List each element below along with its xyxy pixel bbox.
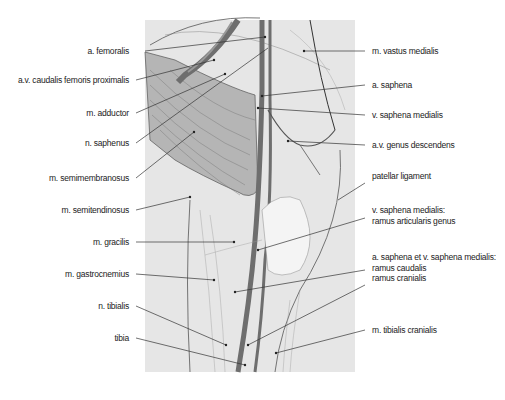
leg-illustration: [0, 0, 505, 400]
label-a-saphena: a. saphena: [372, 80, 412, 90]
label-line: v. saphena medialis:: [372, 205, 455, 216]
label-a-femoralis: a. femoralis: [87, 46, 129, 56]
label-v-saphena-ramus-articularis: v. saphena medialis: ramus articularis g…: [372, 205, 455, 226]
label-tibia: tibia: [114, 333, 129, 343]
anatomy-figure: a. femoralis a.v. caudalis femoris proxi…: [0, 0, 505, 400]
label-n-saphenus: n. saphenus: [85, 138, 129, 148]
label-v-saphena-medialis: v. saphena medialis: [372, 110, 443, 120]
label-m-adductor: m. adductor: [86, 108, 129, 118]
label-av-genus-descendens: a.v. genus descendens: [372, 140, 455, 150]
label-av-caudalis-femoris-proximalis: a.v. caudalis femoris proximalis: [18, 75, 129, 85]
label-a-v-saphena-rami: a. saphena et v. saphena medialis: ramus…: [372, 252, 496, 284]
label-line: ramus cranialis: [372, 273, 496, 284]
label-m-semimembranosus: m. semimembranosus: [49, 173, 129, 183]
label-m-semitendinosus: m. semitendinosus: [62, 205, 129, 215]
label-line: ramus articularis genus: [372, 216, 455, 227]
label-line: ramus caudalis: [372, 263, 496, 274]
label-patellar-ligament: patellar ligament: [372, 171, 431, 181]
label-n-tibialis: n. tibialis: [98, 301, 129, 311]
label-m-gastrocnemius: m. gastrocnemius: [65, 269, 129, 279]
label-m-vastus-medialis: m. vastus medialis: [372, 46, 438, 56]
label-m-gracilis: m. gracilis: [93, 237, 129, 247]
label-line: a. saphena et v. saphena medialis:: [372, 252, 496, 263]
label-m-tibialis-cranialis: m. tibialis cranialis: [372, 325, 437, 335]
